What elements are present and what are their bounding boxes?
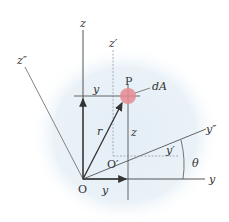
z-double-prime-label: z″ <box>16 54 28 67</box>
y-bottom-label: y <box>101 184 109 197</box>
O-prime-label: O′ <box>107 158 119 171</box>
dA-element <box>120 88 136 104</box>
z-segment-label: z <box>130 126 137 139</box>
y-double-prime-label: y″ <box>205 123 217 136</box>
coordinate-diagram: z z′ z″ y P dA r z O′ y′ y″ θ O y y <box>0 0 229 222</box>
O-label: O <box>78 183 87 196</box>
dA-label: dA <box>152 80 167 93</box>
theta-label: θ <box>192 157 199 170</box>
z-prime-label: z′ <box>108 37 118 50</box>
y-top-label: y <box>92 83 100 96</box>
P-label: P <box>125 75 133 88</box>
y-axis-label: y <box>208 173 216 186</box>
r-label: r <box>97 125 103 138</box>
y-prime-label: y′ <box>165 144 175 157</box>
z-label: z <box>79 17 86 30</box>
background-region <box>30 45 220 222</box>
